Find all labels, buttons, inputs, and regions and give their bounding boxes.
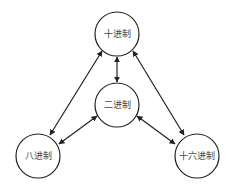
node-octal: 八进制 [16,134,60,178]
edge-decimal-hex [133,51,184,135]
node-decimal-label: 十进制 [104,28,131,39]
node-binary: 二进制 [95,83,139,127]
edge-binary-octal [59,116,97,144]
edge-binary-hex [137,116,175,144]
node-decimal: 十进制 [95,12,139,56]
number-system-diagram: 十进制 二进制 八进制 十六进制 [0,0,229,185]
edge-decimal-octal [50,51,102,135]
node-hex-label: 十六进制 [179,150,215,161]
node-binary-label: 二进制 [104,99,131,110]
node-hex: 十六进制 [175,134,219,178]
node-octal-label: 八进制 [25,150,52,161]
